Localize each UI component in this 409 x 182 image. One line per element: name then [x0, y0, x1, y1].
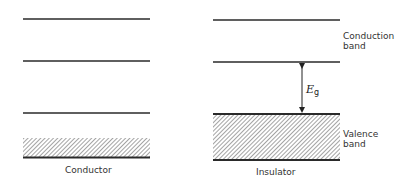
insulator-caption: Insulator — [256, 167, 296, 177]
valence-label-line2: band — [343, 139, 378, 149]
band-gap-label: Eg — [306, 83, 319, 97]
conductor-diagram — [23, 19, 150, 158]
valence-label-line1: Valence — [343, 129, 378, 139]
band-diagram — [0, 0, 409, 182]
conduction-label-line2: band — [343, 41, 394, 51]
conduction-band-label: Conduction band — [343, 31, 394, 51]
conductor-filled-band — [23, 138, 150, 157]
insulator-diagram — [213, 20, 340, 160]
valence-band-label: Valence band — [343, 129, 378, 149]
conductor-caption: Conductor — [65, 165, 112, 175]
insulator-valence-band — [213, 114, 340, 160]
conduction-label-line1: Conduction — [343, 31, 394, 41]
band-gap-symbol: E — [306, 83, 314, 96]
band-gap-subscript: g — [314, 88, 319, 97]
